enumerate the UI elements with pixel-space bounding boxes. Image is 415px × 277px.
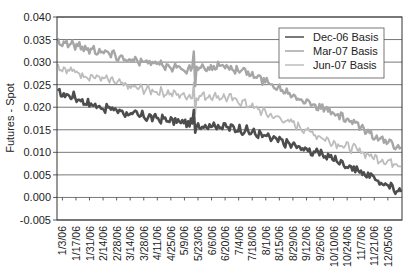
series-line-jun-07-basis <box>58 64 401 167</box>
y-tick-label: 0.030 <box>23 56 51 68</box>
x-tick-label: 3/14/06 <box>124 226 136 261</box>
x-tick-label: 11/21/06 <box>368 226 380 266</box>
y-tick-label: 0.015 <box>23 124 51 136</box>
x-tick-label: 10/10/06 <box>328 226 340 267</box>
x-tick-label: 12/05/06 <box>382 226 394 267</box>
x-tick-label: 1/3/06 <box>56 226 68 255</box>
x-tick-label: 7/18/06 <box>246 226 258 261</box>
x-tick-label: 2/14/06 <box>97 226 109 261</box>
x-tick-label: 9/26/06 <box>314 226 326 261</box>
x-tick-label: 1/17/06 <box>70 226 82 261</box>
y-tick-label: 0.000 <box>23 191 51 203</box>
legend-label-jun-07: Jun-07 Basis <box>313 59 377 71</box>
x-tick-label: 10/24/06 <box>341 226 353 267</box>
x-tick-label: 9/12/06 <box>300 226 312 261</box>
y-tick-label: -0.005 <box>20 214 51 226</box>
y-tick-label: 0.025 <box>23 79 51 91</box>
x-tick-label: 3/28/06 <box>138 226 150 261</box>
x-tick-label: 1/31/06 <box>84 226 96 261</box>
x-axis-ticks <box>62 197 387 200</box>
x-axis-tick-labels: 1/3/061/17/061/31/062/14/062/28/063/14/0… <box>56 226 393 267</box>
legend: Dec-06 Basis Mar-07 Basis Jun-07 Basis <box>279 28 384 78</box>
x-tick-label: 8/29/06 <box>287 226 299 261</box>
x-tick-label: 11/7/06 <box>355 226 367 260</box>
x-tick-label: 4/25/06 <box>165 226 177 261</box>
y-axis-tick-labels: 0.0400.0350.0300.0250.0200.0150.0100.005… <box>20 11 57 226</box>
y-tick-label: 0.005 <box>23 169 51 181</box>
y-tick-label: 0.040 <box>23 11 51 23</box>
x-tick-label: 8/15/06 <box>273 226 285 261</box>
x-tick-label: 5/9/06 <box>178 226 190 255</box>
x-tick-label: 6/20/06 <box>219 226 231 261</box>
basis-line-chart: 0.0400.0350.0300.0250.0200.0150.0100.005… <box>0 0 415 277</box>
x-tick-label: 6/6/06 <box>206 226 218 255</box>
y-tick-label: 0.020 <box>23 101 51 113</box>
x-tick-label: 4/11/06 <box>151 226 163 260</box>
x-tick-label: 5/23/06 <box>192 226 204 261</box>
legend-label-mar-07: Mar-07 Basis <box>313 45 378 57</box>
y-axis-label: Futures - Spot <box>4 83 16 153</box>
y-tick-label: 0.010 <box>23 146 51 158</box>
x-tick-label: 7/4/06 <box>233 226 245 255</box>
series-line-dec-06-basis <box>58 89 401 194</box>
x-tick-label: 2/28/06 <box>111 226 123 261</box>
legend-label-dec-06: Dec-06 Basis <box>313 31 379 43</box>
y-tick-label: 0.035 <box>23 34 51 46</box>
x-tick-label: 8/1/06 <box>260 226 272 255</box>
